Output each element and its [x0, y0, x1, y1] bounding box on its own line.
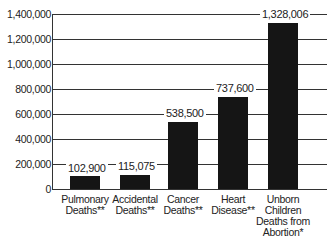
y-tick: 1,200,000 [7, 34, 51, 44]
y-tick: 800,000 [15, 84, 51, 94]
value-label: 102,900 [66, 162, 108, 174]
y-tick: 1,000,000 [7, 59, 51, 69]
y-tick: 1,400,000 [7, 9, 51, 19]
bar-pulmonary [70, 176, 100, 189]
label-line: Abortion* [253, 227, 313, 238]
x-axis [52, 189, 327, 190]
value-label: 115,075 [116, 160, 157, 172]
y-tick: 400,000 [15, 134, 51, 144]
y-tick: 600,000 [15, 109, 51, 119]
y-tick: 200,000 [15, 159, 51, 169]
value-label: 1,328,006 [260, 8, 310, 20]
bar-cancer [168, 122, 198, 189]
value-label: 538,500 [164, 107, 206, 119]
bar-abortion [268, 23, 298, 189]
value-label: 737,600 [214, 82, 256, 94]
y-tick: 0 [45, 184, 51, 194]
bar-heart-disease [218, 97, 248, 189]
bar-accidental [120, 175, 150, 189]
y-axis [52, 14, 53, 190]
category-label-abortion: Unborn Children Deaths from Abortion* [253, 194, 313, 238]
